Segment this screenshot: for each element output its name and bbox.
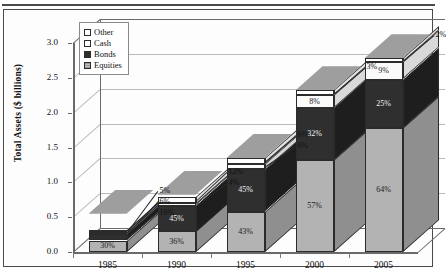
legend-item-other[interactable]: Other	[84, 27, 122, 37]
y-tick-label: 2.5	[30, 72, 58, 82]
x-tick-mark	[142, 253, 143, 258]
equities-swatch-icon	[84, 62, 91, 69]
x-tick-label-1985: 1985	[78, 260, 138, 270]
legend-label: Bonds	[94, 50, 116, 59]
callout-1995-cash: 6%	[298, 141, 309, 150]
bar-segment-2000-other[interactable]	[296, 90, 334, 95]
bar-segment-1995-other[interactable]	[227, 158, 265, 164]
callout-1985-bonds: 16%	[160, 208, 175, 217]
legend-label: Other	[94, 28, 113, 37]
bar-1995[interactable]: 43%45%	[227, 0, 265, 277]
bonds-swatch-icon	[84, 51, 91, 58]
y-tick-label: 3.0	[30, 37, 58, 47]
x-tick-mark	[73, 253, 74, 258]
x-tick-mark	[211, 253, 212, 258]
bar-segment-2000-cash[interactable]	[296, 95, 334, 108]
legend-item-bonds[interactable]: Bonds	[84, 49, 122, 59]
bar-2005[interactable]: 64%25%9%	[365, 0, 403, 277]
callout-1990-other: 12%	[229, 167, 244, 176]
y-tick-label: 2.0	[30, 107, 58, 117]
y-tick-label: 1.5	[30, 142, 58, 152]
y-tick-mark	[68, 217, 72, 218]
callout-1995-other: 6%	[298, 130, 309, 139]
y-axis-title: Total Assets ($ billions)	[13, 33, 23, 193]
legend-item-cash[interactable]: Cash	[84, 38, 122, 48]
callout-1985-other: 5%	[160, 186, 171, 195]
axis-line	[73, 43, 75, 252]
callout-1990-cash: 4%	[229, 178, 240, 187]
y-tick-mark	[68, 78, 72, 79]
bar-segment-1985-equities[interactable]	[89, 241, 127, 252]
x-tick-label-1990: 1990	[147, 260, 207, 270]
x-tick-label-2000: 2000	[285, 260, 345, 270]
bar-segment-2005-equities[interactable]	[365, 128, 403, 252]
legend-label: Cash	[94, 39, 111, 48]
x-tick-mark	[349, 253, 350, 258]
y-tick-mark	[68, 182, 72, 183]
y-tick-label: 0.0	[30, 246, 58, 256]
callout-2005-other: 2%	[436, 30, 446, 39]
x-tick-label-2005: 2005	[354, 260, 414, 270]
y-tick-label: 1.0	[30, 176, 58, 186]
legend-label: Equities	[94, 61, 122, 70]
bar-1990[interactable]: 36%45%	[158, 0, 196, 277]
x-tick-mark	[280, 253, 281, 258]
y-tick-mark	[68, 252, 72, 253]
bar-segment-1985-other[interactable]	[89, 230, 127, 232]
cash-swatch-icon	[84, 40, 91, 47]
bar-segment-1985-cash[interactable]	[89, 232, 127, 234]
bar-segment-1995-equities[interactable]	[227, 212, 265, 252]
legend-item-equities[interactable]: Equities	[84, 60, 122, 70]
other-swatch-icon	[84, 29, 91, 36]
bar-segment-2005-bonds[interactable]	[365, 80, 403, 128]
callout-1985-cash: 6%	[160, 197, 171, 206]
bar-segment-1985-bonds[interactable]	[89, 234, 127, 240]
bar-segment-1990-equities[interactable]	[158, 231, 196, 252]
bar-segment-2000-equities[interactable]	[296, 160, 334, 252]
y-tick-mark	[68, 43, 72, 44]
callout-2000-other: 3%	[367, 62, 378, 71]
x-tick-label-1995: 1995	[216, 260, 276, 270]
y-tick-label: 0.5	[30, 211, 58, 221]
chart-legend: OtherCashBondsEquities	[79, 22, 129, 75]
